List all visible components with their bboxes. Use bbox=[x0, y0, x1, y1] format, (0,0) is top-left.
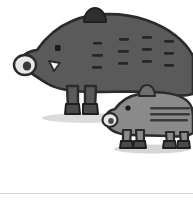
illustration-canvas: Wild boar and piglet illustration bbox=[0, 0, 193, 204]
adult-boar-stripe bbox=[142, 48, 152, 51]
adult-boar-ear-icon bbox=[84, 8, 106, 22]
adult-boar-stripe bbox=[118, 62, 128, 65]
adult-boar-stripe bbox=[164, 52, 174, 55]
piglet-stripes bbox=[150, 107, 190, 121]
adult-boar-stripe bbox=[142, 36, 152, 39]
piglet-hoof-front-near bbox=[120, 141, 133, 148]
adult-boar-eye bbox=[55, 45, 61, 51]
piglet-hoof-hind-near bbox=[163, 141, 176, 148]
adult-boar-stripe bbox=[118, 50, 129, 53]
adult-boar-stripe bbox=[93, 42, 102, 45]
adult-boar-nostril bbox=[23, 61, 31, 70]
adult-boar-stripe bbox=[164, 40, 174, 43]
adult-boar-hoof-front-near bbox=[65, 104, 80, 114]
adult-boar-stripe bbox=[142, 60, 152, 63]
piglet-stripe bbox=[150, 107, 190, 109]
piglet-hoof-front-far bbox=[133, 141, 146, 148]
piglet-eye bbox=[125, 105, 130, 110]
adult-boar-stripe bbox=[92, 66, 102, 69]
adult-boar-stripe bbox=[92, 54, 103, 57]
piglet-hoof-hind-far bbox=[177, 141, 190, 148]
piglet-stripe bbox=[150, 119, 188, 121]
adult-boar-hoof-front-far bbox=[83, 104, 98, 114]
adult-boar-stripe bbox=[119, 38, 129, 41]
adult-boar-stripe bbox=[164, 64, 174, 67]
piglet-ear-icon bbox=[139, 85, 155, 96]
footer-divider bbox=[0, 193, 193, 194]
adult-boar-body bbox=[20, 14, 193, 95]
piglet-nostril bbox=[108, 118, 114, 124]
piglet-stripe bbox=[150, 113, 190, 115]
boar-scene-illustration bbox=[0, 0, 193, 204]
